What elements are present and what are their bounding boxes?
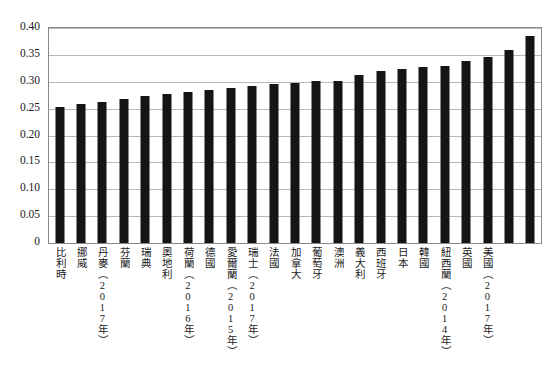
- y-axis-tick-label: 0.15: [20, 155, 40, 167]
- bar[interactable]: [141, 96, 150, 243]
- bar[interactable]: [184, 92, 193, 243]
- x-axis-tick-label: 韓國: [414, 247, 430, 273]
- bar-slot: [49, 28, 70, 243]
- y-axis-tick-label: 0.30: [20, 75, 40, 87]
- x-axis-tick-label: 加拿大: [286, 247, 302, 284]
- bar-slot: [263, 28, 284, 243]
- y-axis-tick-label: 0.25: [20, 102, 40, 114]
- bar[interactable]: [269, 84, 278, 243]
- bar-slot: [156, 28, 177, 243]
- x-axis-tick-label: 德國: [200, 247, 216, 273]
- bar[interactable]: [462, 61, 471, 243]
- bar-slot: [348, 28, 369, 243]
- y-axis-tick-label: 0.10: [20, 182, 40, 194]
- y-axis-tick-label: 0.40: [20, 21, 40, 33]
- y-axis-tick-label: 0.20: [20, 129, 40, 141]
- x-axis-tick-label: 荷蘭（2016年）: [179, 247, 195, 350]
- x-axis-tick-text: 丹麥（2017年）: [96, 247, 107, 346]
- x-axis-tick-text: 愛爾蘭（2015年）: [224, 247, 235, 357]
- bar[interactable]: [526, 36, 535, 243]
- bar-slot: [391, 28, 412, 243]
- x-axis-tick-text: 日本: [396, 247, 407, 269]
- bar-slot: [220, 28, 241, 243]
- x-axis-tick-text: 西班牙: [374, 247, 385, 280]
- bar[interactable]: [397, 69, 406, 243]
- bar-chart-figure: 0.400.350.300.250.200.150.100.050 比利時挪威丹…: [0, 0, 549, 369]
- bar[interactable]: [55, 107, 64, 243]
- bar[interactable]: [77, 104, 86, 243]
- bar[interactable]: [290, 83, 299, 243]
- x-axis-tick-label: 葡萄牙: [307, 247, 323, 284]
- bar[interactable]: [226, 88, 235, 243]
- bar[interactable]: [333, 81, 342, 243]
- y-axis-tick-label: 0.35: [20, 48, 40, 60]
- bar[interactable]: [355, 75, 364, 243]
- x-axis-tick-text: 芬蘭: [118, 247, 129, 269]
- x-axis-tick-label: 法國: [265, 247, 281, 273]
- bar-slot: [455, 28, 476, 243]
- x-axis-tick-label: 美國（2017年）: [479, 247, 495, 350]
- bar-slot: [370, 28, 391, 243]
- bar[interactable]: [119, 99, 128, 243]
- x-axis-tick-text: 瑞典: [139, 247, 150, 269]
- bar-slot: [434, 28, 455, 243]
- x-axis-tick-text: 荷蘭（2016年）: [182, 247, 193, 346]
- x-axis-tick-label: 愛爾蘭（2015年）: [222, 247, 238, 361]
- bar-slot: [520, 28, 541, 243]
- x-axis-tick-text: 義大利: [353, 247, 364, 280]
- bar-slot: [92, 28, 113, 243]
- x-axis-tick-label: 瑞典: [136, 247, 152, 273]
- x-axis-tick-text: 德國: [203, 247, 214, 269]
- x-axis-tick-text: 加拿大: [289, 247, 300, 280]
- y-axis-tick-label: 0: [34, 236, 40, 248]
- bar-slot: [242, 28, 263, 243]
- x-axis-tick-text: 韓國: [417, 247, 428, 269]
- x-axis-tick-text: 法國: [267, 247, 278, 269]
- x-axis-tick-label: 挪威: [72, 247, 88, 273]
- bar-slot: [284, 28, 305, 243]
- bar[interactable]: [504, 50, 513, 244]
- x-axis-tick-label: 義大利: [350, 247, 366, 284]
- y-axis-tick-label: 0.05: [20, 209, 40, 221]
- y-axis: 0.400.350.300.250.200.150.100.050: [0, 0, 44, 369]
- bar-slot: [498, 28, 519, 243]
- x-axis-tick-label: 奧地利: [158, 247, 174, 284]
- x-axis-tick-text: 美國（2017年）: [481, 247, 492, 346]
- bar-slot: [135, 28, 156, 243]
- bar-slot: [113, 28, 134, 243]
- x-axis-tick-text: 澳洲: [331, 247, 342, 269]
- bar[interactable]: [205, 90, 214, 243]
- x-axis-tick-text: 瑞士（2017年）: [246, 247, 257, 346]
- x-axis-tick-text: 葡萄牙: [310, 247, 321, 280]
- bar-slot: [199, 28, 220, 243]
- bar-slot: [477, 28, 498, 243]
- bar[interactable]: [440, 66, 449, 243]
- x-axis-tick-label: 芬蘭: [115, 247, 131, 273]
- bar-slot: [177, 28, 198, 243]
- x-axis-tick-label: 紐西蘭（2014年）: [436, 247, 452, 361]
- x-axis-tick-label: 西班牙: [372, 247, 388, 284]
- bar[interactable]: [312, 81, 321, 243]
- x-axis-tick-label: 澳洲: [329, 247, 345, 273]
- bar[interactable]: [483, 57, 492, 243]
- x-axis-tick-text: 奧地利: [160, 247, 171, 280]
- x-axis-tick-text: 挪威: [75, 247, 86, 269]
- bar-slot: [413, 28, 434, 243]
- bar[interactable]: [419, 67, 428, 243]
- x-axis-tick-label: 比利時: [51, 247, 67, 284]
- x-axis-tick-label: 日本: [393, 247, 409, 273]
- x-axis: 比利時挪威丹麥（2017年）芬蘭瑞典奧地利荷蘭（2016年）德國愛爾蘭（2015…: [48, 247, 542, 367]
- bar-slot: [306, 28, 327, 243]
- x-axis-tick-text: 紐西蘭（2014年）: [438, 247, 449, 357]
- bar-slot: [70, 28, 91, 243]
- bar[interactable]: [248, 86, 257, 243]
- bar[interactable]: [376, 71, 385, 243]
- x-axis-tick-text: 英國: [460, 247, 471, 269]
- x-axis-tick-label: 丹麥（2017年）: [93, 247, 109, 350]
- bar[interactable]: [162, 94, 171, 243]
- plot-area: [48, 27, 542, 244]
- bar[interactable]: [98, 102, 107, 243]
- x-axis-tick-text: 比利時: [53, 247, 64, 280]
- bar-series: [49, 28, 541, 243]
- bar-slot: [327, 28, 348, 243]
